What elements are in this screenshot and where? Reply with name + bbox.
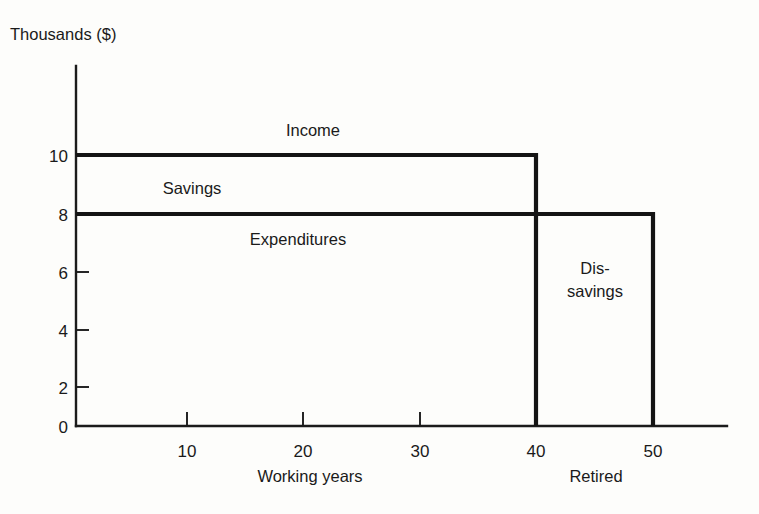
y-tick-label-6: 6 [59,264,68,283]
expenditures-region-label: Expenditures [250,230,346,248]
y-axis-title: Thousands ($) [10,25,116,43]
dissavings-region-label-line2: savings [567,282,623,300]
savings-region-label: Savings [163,179,222,197]
chart-canvas: Thousands ($) 10 8 6 4 2 0 [0,0,759,514]
y-axis-ticks [76,272,89,387]
x-axis-segment-retired: Retired [569,467,622,485]
x-axis-tick-labels: 10 20 30 40 50 [178,442,663,461]
savings-lifecycle-chart: Thousands ($) 10 8 6 4 2 0 [0,0,759,514]
y-tick-label-8: 8 [59,206,68,225]
x-tick-label-10: 10 [178,442,197,461]
dissavings-region-label-line1: Dis- [580,259,609,277]
x-axis-segment-working-years: Working years [257,467,362,485]
x-tick-label-20: 20 [294,442,313,461]
y-tick-label-2: 2 [59,379,68,398]
y-tick-label-4: 4 [59,322,68,341]
y-tick-label-0: 0 [59,418,68,437]
x-axis-ticks [187,412,420,426]
x-tick-label-50: 50 [644,442,663,461]
x-tick-label-30: 30 [411,442,430,461]
income-series-line [76,155,536,426]
y-axis-tick-labels: 10 8 6 4 2 0 [49,147,68,437]
income-region-label: Income [286,121,340,139]
expenditures-series-line [76,214,653,426]
axes [76,66,727,426]
x-tick-label-40: 40 [527,442,546,461]
y-tick-label-10: 10 [49,147,68,166]
